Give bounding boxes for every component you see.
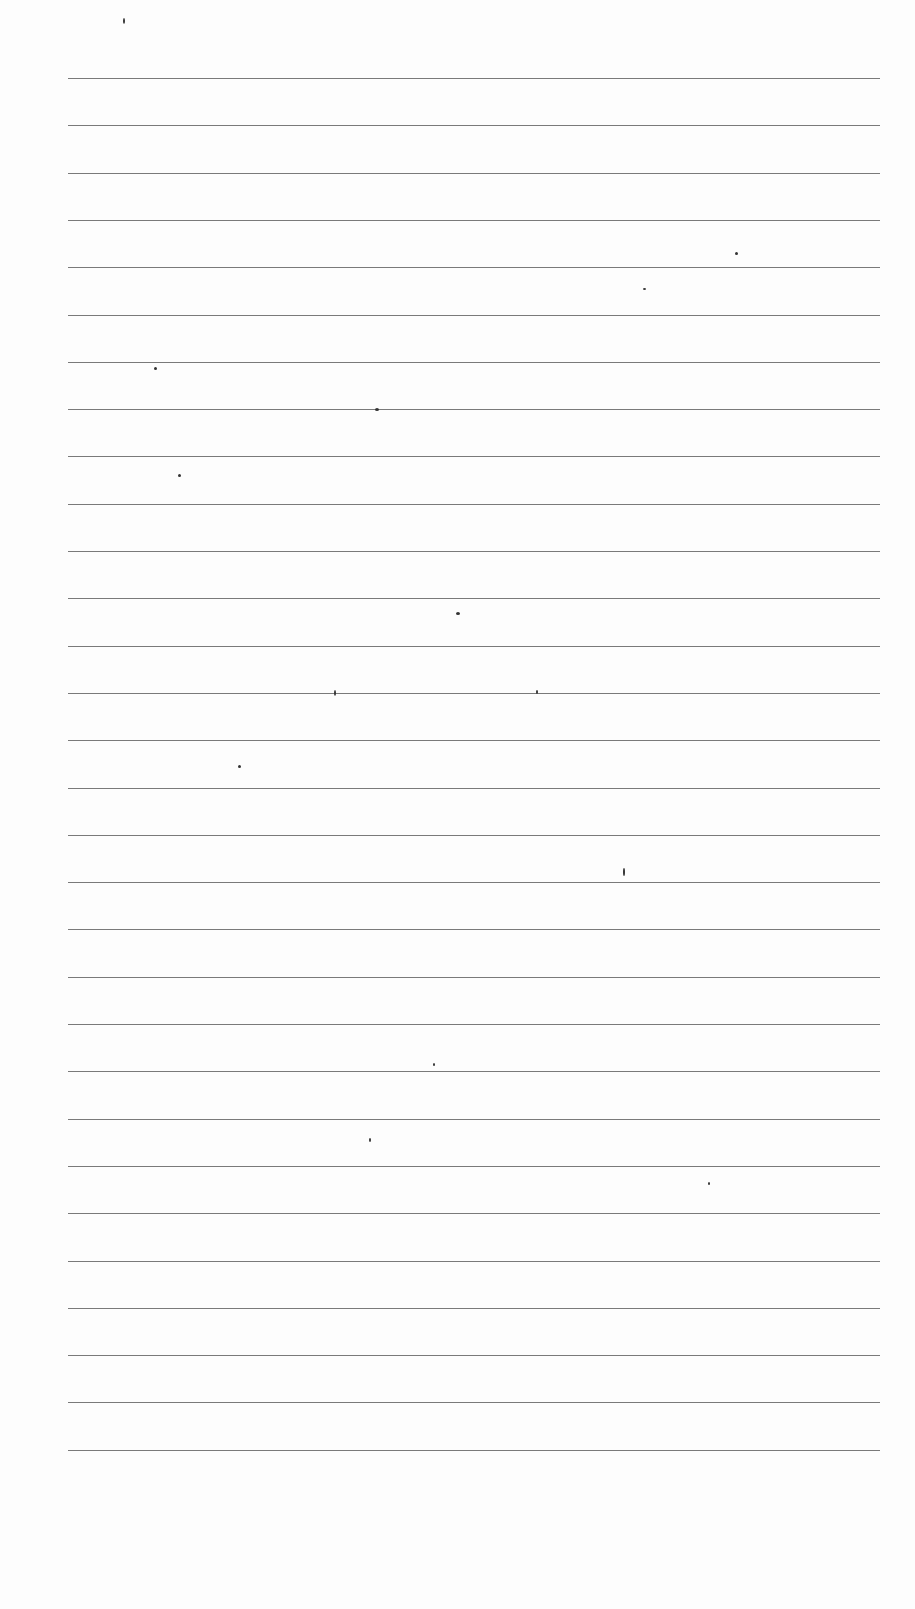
ruled-line	[68, 1355, 880, 1356]
ruled-line	[68, 220, 880, 221]
ruled-line	[68, 1166, 880, 1167]
ruled-line	[68, 882, 880, 883]
ruled-line	[68, 1450, 880, 1451]
ruled-line	[68, 740, 880, 741]
scan-speck	[536, 690, 538, 694]
ruled-line	[68, 788, 880, 789]
scan-speck	[375, 408, 379, 411]
ruled-line	[68, 1024, 880, 1025]
scan-speck	[123, 18, 125, 24]
ruled-line	[68, 929, 880, 930]
ruled-line	[68, 835, 880, 836]
ruled-line	[68, 1308, 880, 1309]
scan-speck	[178, 474, 181, 477]
ruled-line	[68, 173, 880, 174]
ruled-line	[68, 646, 880, 647]
ruled-line	[68, 78, 880, 79]
ruled-line	[68, 362, 880, 363]
ruled-line	[68, 267, 880, 268]
scan-speck	[643, 288, 646, 290]
lined-paper-page	[0, 0, 915, 1609]
ruled-line	[68, 1261, 880, 1262]
ruled-line	[68, 693, 880, 694]
scan-speck	[238, 765, 241, 768]
scan-speck	[623, 868, 625, 876]
ruled-line	[68, 1402, 880, 1403]
ruled-line	[68, 125, 880, 126]
scan-speck	[708, 1182, 710, 1185]
ruled-line	[68, 551, 880, 552]
scan-speck	[369, 1138, 371, 1142]
ruled-line	[68, 1071, 880, 1072]
ruled-line	[68, 1213, 880, 1214]
ruled-line	[68, 598, 880, 599]
ruled-line	[68, 977, 880, 978]
scan-speck	[433, 1063, 435, 1066]
scan-speck	[154, 367, 157, 370]
ruled-line	[68, 456, 880, 457]
scan-speck	[735, 252, 738, 255]
ruled-line	[68, 409, 880, 410]
ruled-line	[68, 504, 880, 505]
scan-speck	[456, 612, 460, 615]
ruled-line	[68, 315, 880, 316]
ruled-line	[68, 1119, 880, 1120]
scan-speck	[334, 690, 336, 696]
